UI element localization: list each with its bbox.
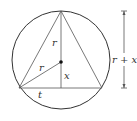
label-r-slant: r xyxy=(39,62,45,73)
label-x: x xyxy=(64,70,70,81)
label-dimension-r-plus-x: r + x xyxy=(112,54,137,65)
dimension-marker xyxy=(121,11,127,88)
geometry-diagram: r r x t r + x xyxy=(0,0,137,121)
label-r-upper: r xyxy=(52,37,58,48)
label-t: t xyxy=(38,89,43,100)
inscribed-triangle xyxy=(19,11,102,88)
center-point xyxy=(59,60,63,64)
